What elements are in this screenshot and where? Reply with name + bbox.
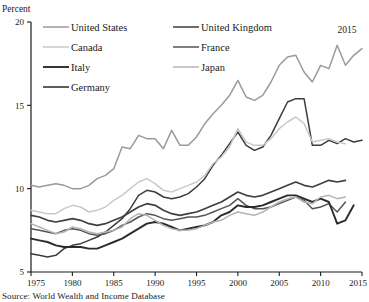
legend-label-italy: Italy	[71, 62, 91, 73]
series-line-germany	[31, 180, 345, 225]
x-tick-label: 2015	[349, 278, 368, 288]
y-tick-label: 5	[20, 267, 25, 277]
x-tick-label: 1990	[146, 278, 165, 288]
x-tick-label: 2005	[270, 278, 289, 288]
chart-annotations: 2015	[338, 25, 357, 35]
y-tick-label: 10	[15, 184, 25, 194]
x-tick-label: 2010	[312, 278, 331, 288]
y-tick-label: 20	[15, 17, 25, 27]
series-line-united-kingdom	[31, 99, 362, 257]
chart-series	[31, 45, 362, 257]
series-line-italy	[31, 195, 354, 248]
legend-label-japan: Japan	[201, 62, 226, 73]
legend-label-united-states: United States	[71, 22, 127, 33]
legend-label-united-kingdom: United Kingdom	[201, 22, 272, 33]
income-share-line-chart: 5101520197519801985199019952000200520102…	[0, 0, 369, 302]
x-tick-label: 1995	[188, 278, 207, 288]
legend-label-france: France	[201, 42, 230, 53]
x-tick-label: 1975	[27, 278, 46, 288]
legend-label-germany: Germany	[71, 82, 111, 93]
x-tick-label: 2000	[229, 278, 248, 288]
y-tick-label: 15	[15, 101, 25, 111]
x-tick-label: 1980	[63, 278, 82, 288]
y-axis-title: Percent	[2, 4, 31, 14]
annotation-year-label: 2015	[338, 25, 357, 35]
source-note: Source: World Wealth and Income Database	[2, 291, 165, 301]
x-tick-label: 1985	[105, 278, 124, 288]
legend-label-canada: Canada	[71, 42, 103, 53]
